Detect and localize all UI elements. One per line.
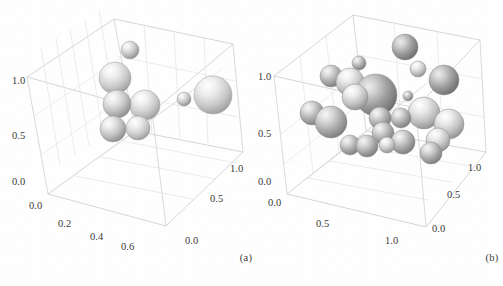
panel-a-canvas: 1.0 0.5 0.0 0.0 0.2 0.4 0.6 1.0 0.5 0.0 — [0, 0, 246, 286]
panel-b-xtick-3: 1.0 — [385, 235, 398, 246]
panel-a-xtick-2: 0.2 — [58, 218, 71, 229]
caption-b-text: (b) — [486, 252, 499, 263]
panel-a-ztick-1: 1.0 — [230, 163, 243, 174]
panel-b-ytick-1: 1.0 — [258, 71, 271, 82]
panel-a-ztick-2: 0.5 — [210, 193, 223, 204]
panel-b-canvas: 1.0 0.5 0.0 0.0 0.5 1.0 1.0 0.5 0.0 — [246, 0, 492, 286]
panel-b-spheres — [300, 34, 464, 164]
panel-a-ytick-2: 0.5 — [12, 130, 25, 141]
panel-a-ytick-3: 0.0 — [12, 176, 25, 187]
panel-a-xtick-1: 0.0 — [29, 200, 42, 211]
caption-panel-b: (b) — [246, 252, 503, 263]
panel-a-ztick-3: 0.0 — [185, 235, 198, 246]
panel-b-xtick-1: 0.0 — [268, 197, 281, 208]
panel-b-ztick-1: 1.0 — [468, 162, 481, 173]
panel-a-xtick-4: 0.6 — [121, 241, 134, 252]
chart-panel-a: 1.0 0.5 0.0 0.0 0.2 0.4 0.6 1.0 0.5 0.0 — [0, 0, 246, 286]
panel-a-xtick-3: 0.4 — [90, 231, 104, 242]
panel-b-ytick-3: 0.0 — [258, 176, 271, 187]
panel-b-ztick-2: 0.5 — [447, 189, 460, 200]
panel-b-ytick-2: 0.5 — [258, 128, 271, 139]
panel-a-ytick-1: 1.0 — [12, 75, 25, 86]
panel-b-ztick-3: 0.0 — [432, 223, 445, 234]
chart-panel-b: 1.0 0.5 0.0 0.0 0.5 1.0 1.0 0.5 0.0 — [246, 0, 492, 286]
panel-b-xtick-2: 0.5 — [316, 218, 329, 229]
